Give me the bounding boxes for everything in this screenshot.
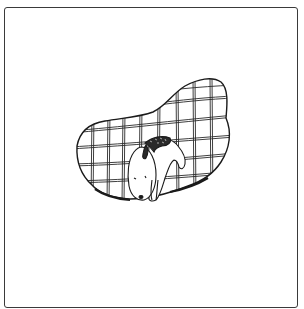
illustration xyxy=(0,0,304,309)
